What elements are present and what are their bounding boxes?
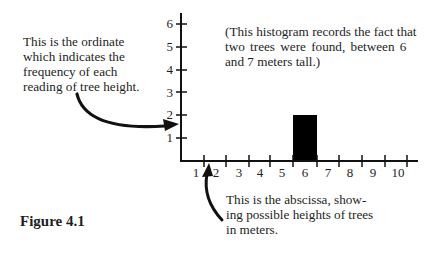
x-tick-1: 1 [193,165,200,180]
x-tick-4: 4 [257,165,264,180]
x-tick-10: 10 [392,165,405,180]
x-tick-5: 5 [279,165,286,180]
x-tick-8: 8 [347,165,354,180]
x-tick-6: 6 [302,165,309,180]
y-tick-4: 4 [167,62,174,77]
x-tick-labels: 1 2 3 4 5 6 7 8 9 10 [193,165,405,180]
ordinate-arrow-icon [77,94,179,131]
x-tick-3: 3 [236,165,243,180]
x-tick-2: 2 [213,165,220,180]
y-tick-6: 6 [167,16,174,31]
y-tick-3: 3 [167,85,174,100]
y-tick-5: 5 [167,39,174,54]
y-tick-2: 2 [167,107,174,122]
x-tick-9: 9 [370,165,377,180]
histogram-chart: 6 5 4 3 2 1 1 2 3 4 5 6 7 8 9 10 [0,0,435,255]
histogram-bar [293,115,317,161]
x-tick-7: 7 [325,165,332,180]
y-tick-1: 1 [167,130,174,145]
